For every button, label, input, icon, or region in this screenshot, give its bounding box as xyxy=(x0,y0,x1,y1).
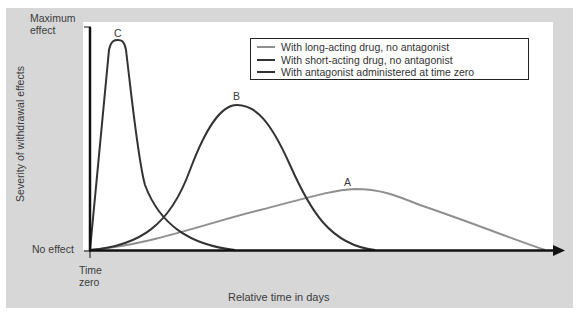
legend-item-long-acting: With long-acting drug, no antagonist xyxy=(257,41,528,54)
legend-swatch-gray xyxy=(257,46,275,48)
legend-swatch-dark xyxy=(257,59,275,61)
legend-item-antagonist: With antagonist administered at time zer… xyxy=(257,66,528,79)
x-axis-arrowhead xyxy=(553,245,565,256)
curve-label-b: B xyxy=(233,90,240,102)
legend: With long-acting drug, no antagonist Wit… xyxy=(250,38,529,80)
curve-label-c: C xyxy=(114,27,122,39)
legend-label: With short-acting drug, no antagonist xyxy=(281,54,453,66)
legend-item-short-acting: With short-acting drug, no antagonist xyxy=(257,54,528,67)
legend-swatch-dark xyxy=(257,71,275,73)
legend-label: With long-acting drug, no antagonist xyxy=(281,41,449,53)
curve-label-a: A xyxy=(344,176,351,188)
curve-a xyxy=(90,189,545,250)
curve-b xyxy=(90,105,375,250)
legend-label: With antagonist administered at time zer… xyxy=(281,66,474,78)
